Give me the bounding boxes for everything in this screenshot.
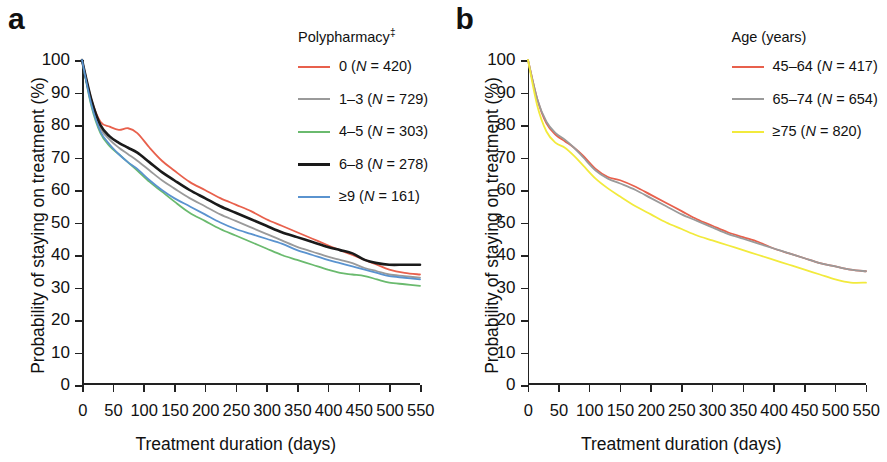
- y-tick-label: 50: [472, 213, 516, 233]
- x-tick-label: 500: [822, 401, 850, 420]
- x-tick: 0: [528, 385, 530, 392]
- x-tick-label: 300: [253, 401, 281, 420]
- x-tick-label: 0: [524, 401, 533, 420]
- x-tick-label: 450: [791, 401, 819, 420]
- x-tick-label: 200: [637, 401, 665, 420]
- legend-item[interactable]: 6–8 (N = 278): [298, 157, 428, 172]
- panel-b-x-axis-label: Treatment duration (days): [460, 434, 887, 455]
- panel-a-x-axis-label: Treatment duration (days): [14, 434, 458, 455]
- legend-color-swatch: [298, 66, 330, 68]
- panel-b-legend-title-text: Age (years): [732, 29, 807, 45]
- x-tick: 350: [743, 385, 745, 392]
- x-tick: 550: [866, 385, 868, 392]
- x-tick: 500: [389, 385, 391, 392]
- x-tick-label: 100: [576, 401, 604, 420]
- legend-item[interactable]: 45–64 (N = 417): [732, 59, 878, 74]
- x-tick-label: 50: [550, 401, 568, 420]
- figure-container: a Probability of staying on treatment (%…: [0, 0, 887, 462]
- y-tick: 0: [75, 385, 82, 387]
- x-tick-label: 350: [730, 401, 758, 420]
- legend-item[interactable]: ≥9 (N = 161): [298, 189, 428, 204]
- panel-b: b Probability of staying on treatment (%…: [444, 0, 887, 462]
- x-tick: 450: [804, 385, 806, 392]
- x-tick: 100: [589, 385, 591, 392]
- y-tick: 70: [75, 158, 82, 160]
- x-tick-label: 150: [161, 401, 189, 420]
- panel-a-legend: Polypharmacy‡ 0 (N = 420)1–3 (N = 729)4–…: [298, 28, 428, 222]
- x-tick: 50: [113, 385, 115, 392]
- y-tick: 100: [521, 60, 528, 62]
- panel-b-legend: Age (years) 45–64 (N = 417)65–74 (N = 65…: [732, 28, 878, 157]
- y-tick-label: 70: [472, 148, 516, 168]
- x-tick: 450: [359, 385, 361, 392]
- panel-a-legend-items: 0 (N = 420)1–3 (N = 729)4–5 (N = 303)6–8…: [298, 59, 428, 204]
- x-tick-label: 200: [192, 401, 220, 420]
- x-tick-label: 0: [78, 401, 87, 420]
- y-tick: 30: [521, 288, 528, 290]
- x-tick: 0: [82, 385, 84, 392]
- y-tick-label: 100: [26, 50, 70, 70]
- legend-item-label: ≥9 (N = 161): [339, 189, 420, 204]
- y-tick-label: 10: [26, 343, 70, 363]
- x-tick: 250: [236, 385, 238, 392]
- legend-item-label: 45–64 (N = 417): [773, 59, 878, 74]
- legend-item[interactable]: 1–3 (N = 729): [298, 92, 428, 107]
- legend-item[interactable]: 4–5 (N = 303): [298, 124, 428, 139]
- y-tick: 80: [75, 125, 82, 127]
- legend-color-swatch: [732, 66, 764, 68]
- y-tick: 40: [521, 255, 528, 257]
- y-tick-label: 10: [472, 343, 516, 363]
- legend-item-label: 6–8 (N = 278): [339, 157, 428, 172]
- y-tick: 30: [75, 288, 82, 290]
- x-tick-label: 150: [607, 401, 635, 420]
- x-tick: 400: [773, 385, 775, 392]
- y-tick-label: 80: [472, 115, 516, 135]
- y-tick-label: 30: [472, 278, 516, 298]
- legend-color-swatch: [298, 131, 330, 133]
- legend-item[interactable]: ≥75 (N = 820): [732, 124, 878, 139]
- x-tick: 250: [681, 385, 683, 392]
- x-tick: 200: [205, 385, 207, 392]
- x-tick-label: 500: [376, 401, 404, 420]
- x-tick-label: 550: [407, 401, 435, 420]
- x-tick: 300: [266, 385, 268, 392]
- x-tick: 300: [712, 385, 714, 392]
- legend-color-swatch: [298, 163, 330, 166]
- legend-item-label: 0 (N = 420): [339, 59, 412, 74]
- x-tick: 550: [420, 385, 422, 392]
- legend-item[interactable]: 65–74 (N = 654): [732, 92, 878, 107]
- x-tick-label: 300: [699, 401, 727, 420]
- y-tick-label: 20: [472, 310, 516, 330]
- legend-item-label: ≥75 (N = 820): [773, 124, 862, 139]
- y-tick: 70: [521, 158, 528, 160]
- y-tick: 60: [75, 190, 82, 192]
- x-tick: 100: [143, 385, 145, 392]
- y-tick-label: 90: [26, 83, 70, 103]
- legend-color-swatch: [298, 98, 330, 100]
- x-tick-label: 550: [852, 401, 880, 420]
- y-tick: 90: [75, 93, 82, 95]
- y-tick-label: 70: [26, 148, 70, 168]
- y-tick-label: 80: [26, 115, 70, 135]
- panel-b-label: b: [456, 2, 474, 36]
- x-tick-label: 50: [104, 401, 122, 420]
- y-tick-label: 0: [26, 375, 70, 395]
- x-tick: 400: [328, 385, 330, 392]
- y-tick: 90: [521, 93, 528, 95]
- y-tick-label: 40: [26, 245, 70, 265]
- legend-item-label: 1–3 (N = 729): [339, 92, 428, 107]
- legend-item[interactable]: 0 (N = 420): [298, 59, 428, 74]
- y-tick: 60: [521, 190, 528, 192]
- panel-a-legend-title-superscript: ‡: [390, 27, 396, 38]
- x-tick: 150: [620, 385, 622, 392]
- y-tick: 40: [75, 255, 82, 257]
- y-tick-label: 0: [472, 375, 516, 395]
- y-tick: 20: [521, 320, 528, 322]
- x-tick-label: 400: [760, 401, 788, 420]
- legend-color-swatch: [732, 98, 764, 100]
- y-tick-label: 60: [472, 180, 516, 200]
- y-tick-label: 60: [26, 180, 70, 200]
- y-tick-label: 40: [472, 245, 516, 265]
- y-tick: 0: [521, 385, 528, 387]
- y-tick: 20: [75, 320, 82, 322]
